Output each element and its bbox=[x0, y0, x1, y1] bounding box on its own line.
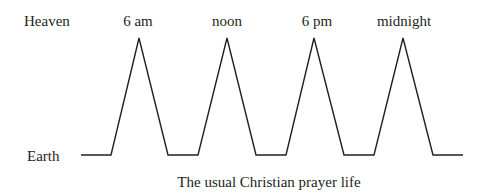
prayer-wave-diagram bbox=[0, 0, 486, 194]
diagram-caption: The usual Christian prayer life bbox=[177, 175, 360, 190]
prayer-wave-line bbox=[81, 38, 463, 155]
